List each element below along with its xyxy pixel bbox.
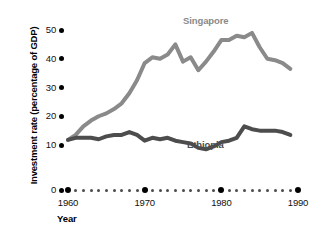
series-label-ethiopia: Ethiopia [187, 139, 224, 150]
plot-area [0, 0, 329, 233]
line-series-singapore [68, 33, 290, 140]
series-label-singapore: Singapore [183, 15, 229, 26]
x-axis-title: Year [57, 213, 77, 224]
chart-container: Investment rate (percentage of GDP) 0102… [0, 0, 329, 233]
line-series-ethiopia [68, 126, 290, 149]
